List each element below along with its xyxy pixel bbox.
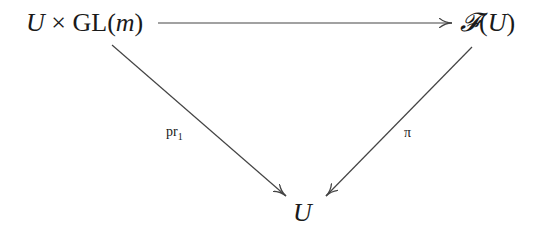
var-u: U — [488, 8, 507, 37]
times-symbol: × — [51, 8, 66, 37]
label-pi: π — [404, 126, 411, 140]
paren-close: ) — [506, 8, 515, 37]
arrow-pi — [326, 47, 472, 196]
label-pi-symbol: π — [404, 125, 411, 140]
label-subscript: 1 — [178, 131, 183, 142]
label-pr1: pr1 — [166, 125, 183, 142]
node-frame-bundle: 𝓕(U) — [460, 10, 515, 36]
label-pr: pr — [166, 124, 178, 139]
node-u-times-gl: U × GL(m) — [26, 10, 143, 36]
functor-f: 𝓕 — [460, 8, 479, 37]
paren-open: ( — [479, 8, 488, 37]
node-u-bottom: U — [293, 200, 312, 226]
var-u: U — [26, 8, 45, 37]
var-u: U — [293, 198, 312, 227]
paren-close: ) — [135, 8, 144, 37]
group-gl: GL — [72, 8, 107, 37]
var-m: m — [116, 8, 135, 37]
arrow-pr1 — [112, 45, 286, 196]
paren-open: ( — [107, 8, 116, 37]
